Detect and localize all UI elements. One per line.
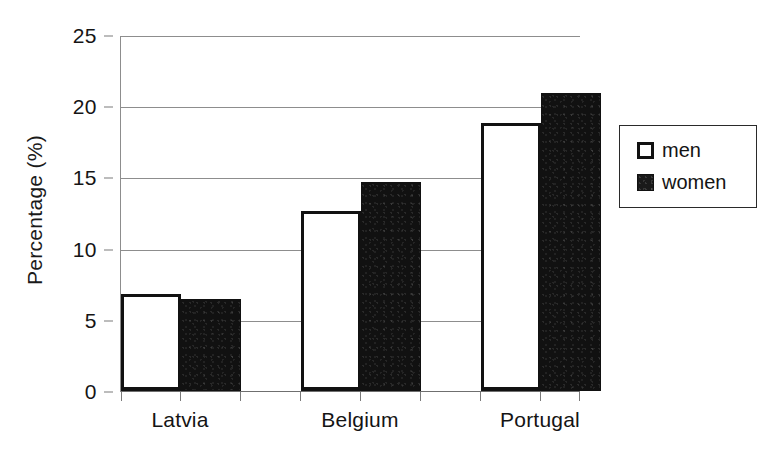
x-tick-mark-8 — [579, 392, 580, 401]
gridline-20 — [121, 107, 580, 108]
bar-portugal-men — [481, 123, 541, 391]
x-tick-mark-7 — [540, 392, 541, 401]
legend-item-men: men — [637, 139, 701, 162]
chart-figure: Percentage (%) 25 20 15 10 5 0 — [0, 0, 783, 457]
y-tick-label-10: 10 — [73, 238, 97, 262]
y-tick-mark-25 — [104, 36, 113, 37]
bar-latvia-women — [181, 299, 241, 391]
x-tick-mark-1 — [180, 392, 181, 401]
y-tick-mark-0 — [104, 392, 113, 393]
y-tick-label-15: 15 — [73, 166, 97, 190]
legend-label-men: men — [662, 139, 701, 162]
plot-area — [121, 36, 580, 392]
y-tick-label-5: 5 — [85, 309, 97, 333]
y-tick-mark-5 — [104, 320, 113, 321]
x-label-latvia: Latvia — [151, 408, 208, 432]
y-tick-label-20: 20 — [73, 95, 97, 119]
x-axis-ticks — [121, 392, 580, 402]
x-label-portugal: Portugal — [500, 408, 580, 432]
legend-box: men women — [619, 125, 757, 208]
legend-label-women: women — [662, 171, 726, 194]
x-tick-mark-5 — [420, 392, 421, 401]
open-square-icon — [637, 142, 654, 159]
x-tick-mark-3 — [300, 392, 301, 401]
y-tick-mark-10 — [104, 249, 113, 250]
legend-item-women: women — [637, 171, 726, 194]
y-tick-label-0: 0 — [85, 380, 97, 404]
bar-belgium-women — [361, 182, 421, 391]
x-axis-labels: Latvia Belgium Portugal — [121, 408, 641, 442]
x-label-belgium: Belgium — [321, 408, 398, 432]
bar-latvia-men — [121, 294, 181, 391]
x-tick-mark-6 — [480, 392, 481, 401]
x-tick-mark-0 — [121, 392, 122, 401]
x-tick-mark-4 — [360, 392, 361, 401]
gridline-25 — [121, 36, 580, 37]
y-axis-ticks: 25 20 15 10 5 0 — [0, 36, 113, 392]
y-tick-mark-20 — [104, 107, 113, 108]
x-tick-mark-2 — [240, 392, 241, 401]
y-tick-label-25: 25 — [73, 24, 97, 48]
bar-belgium-men — [301, 211, 361, 391]
y-tick-mark-15 — [104, 178, 113, 179]
filled-square-icon — [637, 174, 654, 191]
bar-portugal-women — [541, 93, 601, 391]
